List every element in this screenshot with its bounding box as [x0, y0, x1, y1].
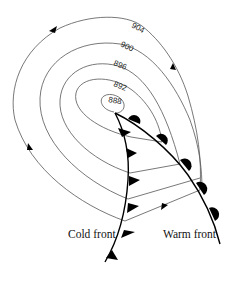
- isobar-label: 900: [119, 40, 135, 54]
- weather-diagram: 888 892 896 900 904 Cold front Warm fron…: [0, 0, 236, 282]
- flow-arrows: [27, 26, 176, 210]
- arrow-icon: [49, 26, 57, 33]
- arrow-icon: [27, 143, 33, 150]
- isobars: [13, 17, 202, 221]
- isobar-label: 892: [112, 80, 128, 94]
- isobar-904: [13, 17, 200, 221]
- cold-front-label: Cold front: [68, 228, 116, 240]
- isobar-label: 888: [108, 95, 123, 106]
- warm-front-label: Warm front: [163, 228, 217, 240]
- isobar-label: 896: [112, 59, 128, 73]
- isobar-896: [60, 64, 180, 173]
- isobar-label: 904: [130, 21, 146, 35]
